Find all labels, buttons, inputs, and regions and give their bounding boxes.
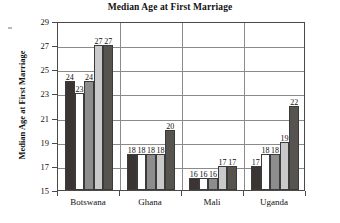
bar-value-label: 16: [209, 170, 217, 179]
x-axis-category-label: Mali: [204, 197, 221, 207]
chart-container: Median Age at First Marriage Median Age …: [0, 0, 340, 223]
group-separator: [244, 23, 245, 190]
chart-title: Median Age at First Marriage: [0, 2, 340, 12]
bar[interactable]: [251, 166, 261, 190]
bar-value-label: 27: [95, 37, 103, 46]
group-separator: [120, 23, 121, 190]
bar[interactable]: [137, 154, 147, 190]
y-tick-label: 23: [9, 89, 49, 99]
y-tick-label: 17: [9, 162, 49, 172]
bar-value-label: 18: [147, 146, 155, 155]
y-tick-label: 19: [9, 138, 49, 148]
bar-value-label: 16: [199, 170, 207, 179]
x-tick-mark: [181, 191, 182, 196]
bar[interactable]: [103, 45, 113, 190]
bar-value-label: 18: [261, 146, 269, 155]
x-tick-mark: [57, 191, 58, 196]
bar[interactable]: [94, 45, 104, 190]
bar-value-label: 23: [75, 85, 83, 94]
bar[interactable]: [189, 178, 199, 190]
scan-speck: [8, 27, 12, 29]
bar-value-label: 18: [128, 146, 136, 155]
y-tick-label: 25: [9, 65, 49, 75]
bar[interactable]: [218, 166, 228, 190]
bar[interactable]: [199, 178, 209, 190]
bar[interactable]: [84, 81, 94, 190]
bar-value-label: 17: [252, 158, 260, 167]
bar-value-label: 19: [281, 134, 289, 143]
y-tick-label: 29: [9, 17, 49, 27]
bar-value-label: 22: [290, 98, 298, 107]
bar[interactable]: [227, 166, 237, 190]
bar[interactable]: [165, 130, 175, 190]
bar[interactable]: [261, 154, 271, 190]
y-tick-label: 27: [9, 41, 49, 51]
bar[interactable]: [270, 154, 280, 190]
bar-value-label: 24: [66, 73, 74, 82]
bar-value-label: 16: [190, 170, 198, 179]
bar[interactable]: [208, 178, 218, 190]
bar[interactable]: [289, 106, 299, 191]
bar[interactable]: [127, 154, 137, 190]
x-axis-category-label: Uganda: [260, 197, 288, 207]
bar-value-label: 17: [219, 158, 227, 167]
bar-value-label: 17: [228, 158, 236, 167]
bar-value-label: 18: [137, 146, 145, 155]
bar[interactable]: [146, 154, 156, 190]
bar-value-label: 18: [271, 146, 279, 155]
x-axis-category-label: Ghana: [138, 197, 162, 207]
bar[interactable]: [75, 93, 85, 190]
bar-value-label: 24: [85, 73, 93, 82]
group-separator: [182, 23, 183, 190]
y-tick-label: 21: [9, 114, 49, 124]
bar[interactable]: [156, 154, 166, 190]
y-tick-label: 15: [9, 186, 49, 196]
bar-value-label: 18: [157, 146, 165, 155]
bar[interactable]: [65, 81, 75, 190]
bar-value-label: 27: [104, 37, 112, 46]
plot-area: 2423242727181818182016161617171718181922: [57, 22, 305, 191]
bar-value-label: 20: [166, 122, 174, 131]
bar[interactable]: [280, 142, 290, 190]
x-tick-mark: [243, 191, 244, 196]
x-tick-mark: [305, 191, 306, 196]
x-tick-mark: [119, 191, 120, 196]
x-axis-category-label: Botswana: [70, 197, 106, 207]
